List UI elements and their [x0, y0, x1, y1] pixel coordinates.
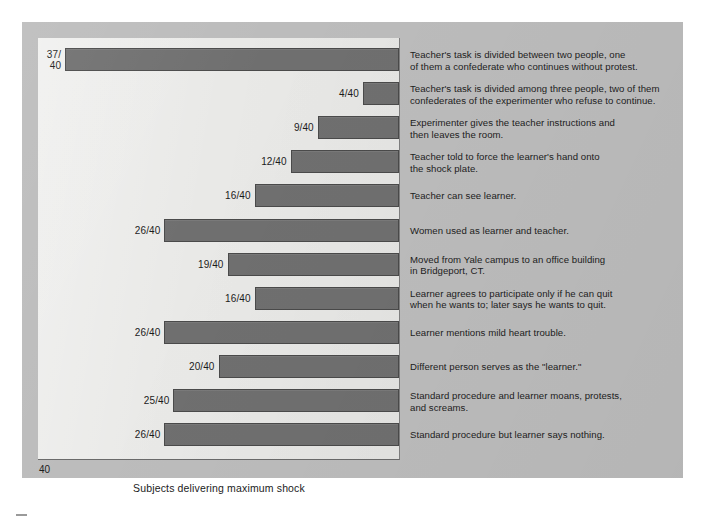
bar-value-label: 37/ 40: [38, 49, 61, 71]
row-description: Standard procedure but learner says noth…: [410, 429, 672, 441]
bar: [291, 150, 399, 173]
row-description-line: then leaves the room.: [410, 129, 672, 141]
bar: [363, 82, 399, 105]
row-description: Teacher's task is divided among three pe…: [410, 83, 672, 106]
x-axis-title: Subjects delivering maximum shock: [38, 482, 400, 494]
bar-value-label: 20/40: [38, 361, 215, 372]
row-description-line: Standard procedure but learner says noth…: [410, 429, 672, 441]
bar: [255, 184, 399, 207]
row-description-line: Learner agrees to participate only if he…: [410, 288, 672, 300]
row-description: Teacher can see learner.: [410, 190, 672, 202]
axis-origin-label: 40: [39, 464, 50, 475]
bar: [318, 116, 399, 139]
row-description-line: the shock plate.: [410, 163, 672, 175]
row-description-line: Teacher's task is divided among three pe…: [410, 83, 672, 95]
bar-value-label: 9/40: [38, 122, 314, 133]
row-description-line: and screams.: [410, 402, 672, 414]
bar: [164, 321, 399, 344]
bar-value-label: 19/40: [38, 259, 224, 270]
bar-value-label: 26/40: [38, 225, 160, 236]
scan-artifact-mark: [16, 514, 27, 516]
bar-value-label: 26/40: [38, 327, 160, 338]
bar: [255, 287, 399, 310]
figure-panel: 37/ 404/409/4012/4016/4026/4019/4016/402…: [22, 22, 683, 478]
row-description: Standard procedure and learner moans, pr…: [410, 390, 672, 413]
row-description-line: Experimenter gives the teacher instructi…: [410, 117, 672, 129]
bar: [65, 48, 399, 71]
row-description-line: Learner mentions mild heart trouble.: [410, 327, 672, 339]
bar: [164, 423, 399, 446]
row-description: Teacher's task is divided between two pe…: [410, 49, 672, 72]
row-description: Women used as learner and teacher.: [410, 225, 672, 237]
row-description-line: Women used as learner and teacher.: [410, 225, 672, 237]
bar-row: [38, 48, 399, 71]
bar-value-label: 25/40: [38, 395, 169, 406]
row-description-line: Standard procedure and learner moans, pr…: [410, 390, 672, 402]
row-description-line: in Bridgeport, CT.: [410, 265, 672, 277]
bar: [219, 355, 400, 378]
bar: [164, 219, 399, 242]
bar-value-label: 16/40: [38, 293, 251, 304]
row-description: Learner agrees to participate only if he…: [410, 288, 672, 311]
row-description-line: Different person serves as the "learner.…: [410, 361, 672, 373]
row-description: Experimenter gives the teacher instructi…: [410, 117, 672, 140]
bar-value-label: 16/40: [38, 190, 251, 201]
row-description-line: Moved from Yale campus to an office buil…: [410, 254, 672, 266]
row-description-line: when he wants to; later says he wants to…: [410, 299, 672, 311]
row-description: Learner mentions mild heart trouble.: [410, 327, 672, 339]
row-description: Different person serves as the "learner.…: [410, 361, 672, 373]
row-descriptions-column: Teacher's task is divided between two pe…: [410, 38, 672, 468]
row-description-line: Teacher can see learner.: [410, 190, 672, 202]
bar: [173, 389, 399, 412]
row-description-line: of them a confederate who continues with…: [410, 61, 672, 73]
row-description: Teacher told to force the learner's hand…: [410, 151, 672, 174]
bar-value-label: 12/40: [38, 156, 287, 167]
bar-value-label: 26/40: [38, 429, 160, 440]
bars-container: 37/ 404/409/4012/4016/4026/4019/4016/402…: [38, 38, 399, 460]
row-description: Moved from Yale campus to an office buil…: [410, 254, 672, 277]
row-description-line: confederates of the experimenter who ref…: [410, 95, 672, 107]
row-description-line: Teacher's task is divided between two pe…: [410, 49, 672, 61]
row-description-line: Teacher told to force the learner's hand…: [410, 151, 672, 163]
bar-value-label: 4/40: [38, 88, 359, 99]
bar: [228, 253, 399, 276]
